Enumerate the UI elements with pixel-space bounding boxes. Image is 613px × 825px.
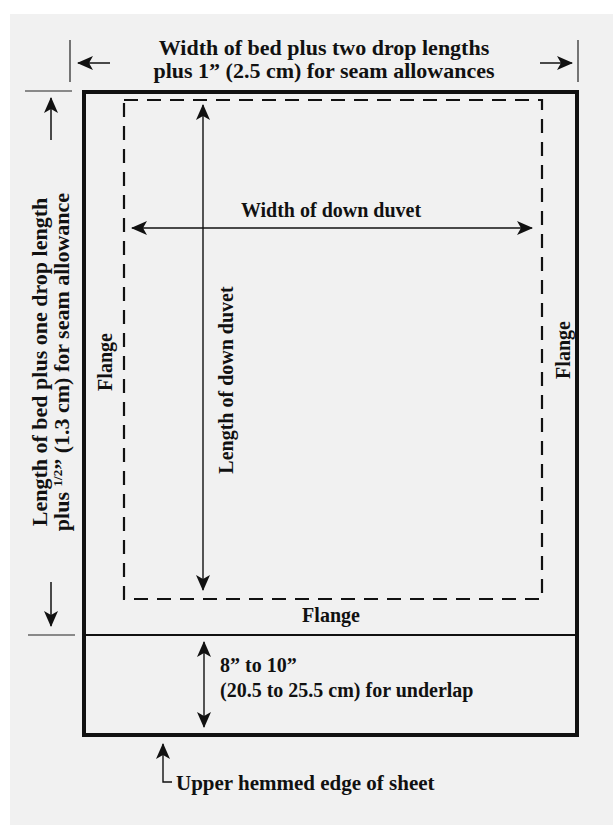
underlap-dimension: 8” to 10” (20.5 to 25.5 cm) for underlap — [204, 642, 474, 727]
top-dimension: Width of bed plus two drop lengths plus … — [70, 35, 578, 83]
inner-length-dimension: Length of down duvet — [203, 105, 238, 590]
flange-bottom-label: Flange — [302, 604, 360, 627]
flange-right-label: Flange — [552, 321, 575, 379]
top-dimension-line1: Width of bed plus two drop lengths — [159, 35, 490, 60]
sheet-outline — [84, 92, 577, 735]
underlap-line2: (20.5 to 25.5 cm) for underlap — [220, 679, 474, 702]
flange-left-label: Flange — [94, 333, 117, 391]
underlap-line1: 8” to 10” — [220, 654, 297, 676]
top-dimension-line2: plus 1” (2.5 cm) for seam allowances — [153, 58, 495, 83]
inner-length-label: Length of down duvet — [215, 286, 238, 474]
left-dimension-line2: plus 1/2” (1.3 cm) for seam allowance — [49, 193, 74, 531]
duvet-dashed-outline — [124, 100, 542, 599]
bottom-callout-label: Upper hemmed edge of sheet — [176, 771, 435, 795]
bottom-callout: Upper hemmed edge of sheet — [163, 744, 435, 795]
duvet-sheet-diagram: Width of bed plus two drop lengths plus … — [0, 0, 613, 825]
left-dimension: Length of bed plus one drop length plus … — [25, 91, 75, 635]
inner-width-dimension: Width of down duvet — [132, 199, 532, 228]
inner-width-label: Width of down duvet — [241, 199, 422, 221]
callout-elbow — [163, 770, 172, 782]
